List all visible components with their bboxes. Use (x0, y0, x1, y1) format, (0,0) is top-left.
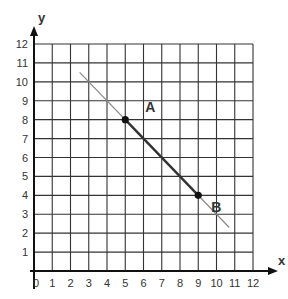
y-tick-label: 11 (17, 57, 28, 69)
y-tick-label: 10 (16, 76, 28, 88)
y-axis-label: y (38, 10, 46, 25)
point-label-b: B (211, 199, 221, 215)
x-tick-label: 7 (159, 277, 165, 289)
point-b (195, 192, 202, 199)
x-tick-label: 6 (140, 277, 146, 289)
x-axis-arrow-icon (268, 267, 278, 275)
y-tick-label: 7 (22, 133, 28, 145)
x-tick-label: 2 (67, 277, 73, 289)
x-tick-label: 4 (104, 277, 110, 289)
y-axis-arrow-icon (30, 26, 38, 36)
y-tick-label: 3 (22, 208, 28, 220)
x-tick-label: 12 (247, 277, 259, 289)
y-tick-label: 1 (22, 246, 28, 258)
x-tick-label: 10 (210, 277, 222, 289)
coordinate-plane: 0123456789101112123456789101112 AB x y (0, 0, 288, 299)
y-tick-label: 8 (22, 114, 28, 126)
point-a (122, 116, 129, 123)
data-series (80, 72, 230, 227)
chart-svg: 0123456789101112123456789101112 AB x y (0, 0, 288, 299)
y-tick-label: 5 (22, 170, 28, 182)
y-tick-label: 4 (22, 189, 28, 201)
y-tick-label: 2 (22, 227, 28, 239)
x-tick-label: 5 (122, 277, 128, 289)
grid-lines (34, 44, 253, 271)
y-tick-label: 9 (22, 95, 28, 107)
x-tick-label: 11 (229, 277, 240, 289)
x-axis-label: x (278, 253, 286, 268)
x-tick-label: 3 (86, 277, 92, 289)
x-tick-label: 0 (33, 277, 39, 289)
x-tick-label: 9 (195, 277, 201, 289)
y-tick-label: 12 (16, 38, 28, 50)
y-tick-label: 6 (22, 152, 28, 164)
x-tick-label: 8 (177, 277, 183, 289)
x-tick-label: 1 (49, 277, 55, 289)
point-label-a: A (145, 99, 155, 115)
